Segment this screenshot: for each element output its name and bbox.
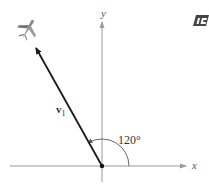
origin-point	[100, 164, 104, 168]
vector-v1	[36, 48, 102, 166]
y-axis-label: y	[101, 8, 106, 19]
vector-label-subscript: 1	[62, 109, 66, 118]
logo-icon	[193, 14, 209, 27]
vector-diagram	[0, 0, 209, 187]
vector-label: v1	[56, 104, 66, 118]
x-axis-label: x	[192, 160, 197, 171]
angle-label: 120°	[118, 134, 141, 146]
airplane-icon	[14, 15, 42, 44]
